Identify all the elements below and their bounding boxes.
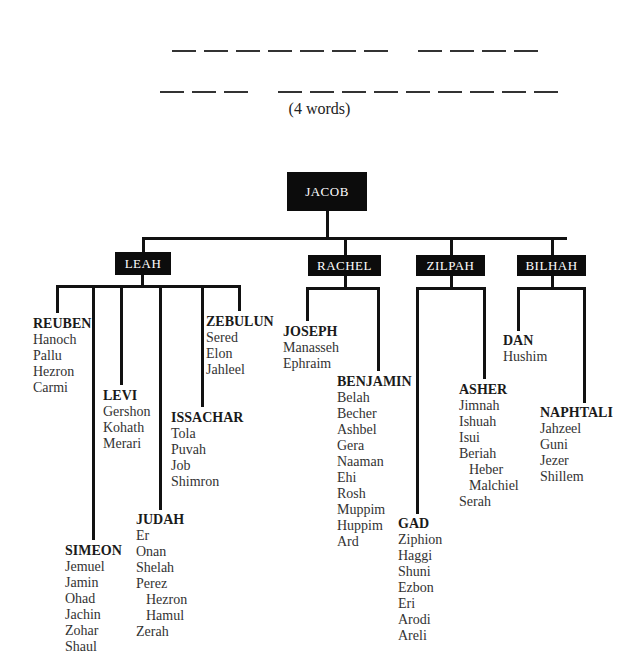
grandson: Job: [171, 458, 243, 474]
connector: [326, 211, 329, 239]
connector: [551, 237, 554, 255]
connector: [56, 285, 241, 288]
letter-blank: [364, 50, 388, 52]
word-count-hint: (4 words): [0, 100, 639, 118]
node-zilpah: ZILPAH: [416, 255, 485, 276]
grandson: Haggi: [398, 548, 442, 564]
letter-blank: [236, 50, 260, 52]
connector: [306, 287, 309, 321]
grandson: Serah: [459, 494, 519, 510]
letter-blank: [172, 50, 196, 52]
son-name: JOSEPH: [283, 324, 339, 340]
letter-blank: [406, 91, 430, 93]
son-judah: JUDAH Er Onan Shelah Perez Hezron Hamul …: [136, 512, 187, 640]
grandson: Eri: [398, 596, 442, 612]
great-grandson: Malchiel: [459, 478, 519, 494]
grandson: Shaul: [65, 639, 122, 655]
grandson: Ishuah: [459, 414, 519, 430]
connector: [344, 237, 347, 255]
connector: [159, 285, 162, 510]
node-leah: LEAH: [115, 252, 171, 275]
node-bilhah: BILHAH: [517, 255, 586, 276]
son-name: ISSACHAR: [171, 410, 243, 426]
grandson: Kohath: [103, 420, 150, 436]
son-name: DAN: [503, 333, 547, 349]
grandson: Perez: [136, 576, 187, 592]
grandson: Shuni: [398, 564, 442, 580]
letter-blank: [278, 91, 302, 93]
grandson: Arodi: [398, 612, 442, 628]
node-rachel: RACHEL: [308, 255, 381, 276]
letter-blank: [502, 91, 526, 93]
letter-blank: [482, 50, 506, 52]
grandson: Shillem: [540, 469, 613, 485]
connector: [306, 287, 380, 290]
grandson: Ashbel: [337, 422, 412, 438]
son-levi: LEVI Gershon Kohath Merari: [103, 388, 150, 452]
letter-blank: [204, 50, 228, 52]
grandson: Er: [136, 528, 187, 544]
grandson: Hanoch: [33, 332, 91, 348]
son-joseph: JOSEPH Manasseh Ephraim: [283, 324, 339, 372]
letter-blank: [310, 91, 334, 93]
son-issachar: ISSACHAR Tola Puvah Job Shimron: [171, 410, 243, 490]
grandson: Shelah: [136, 560, 187, 576]
grandson: Merari: [103, 436, 150, 452]
puzzle-line-2: [160, 91, 580, 93]
grandson: Beriah: [459, 446, 519, 462]
grandson: Carmi: [33, 380, 91, 396]
grandson: Hushim: [503, 349, 547, 365]
grandson: Ehi: [337, 470, 412, 486]
son-name: ZEBULUN: [206, 314, 274, 330]
letter-blank: [332, 50, 356, 52]
letter-blank: [192, 91, 216, 93]
son-gad: GAD Ziphion Haggi Shuni Ezbon Eri Arodi …: [398, 516, 442, 644]
grandson: Jezer: [540, 453, 613, 469]
son-dan: DAN Hushim: [503, 333, 547, 365]
son-name: ASHER: [459, 382, 519, 398]
connector: [92, 285, 95, 540]
grandson: Jamin: [65, 575, 122, 591]
grandson: Sered: [206, 330, 274, 346]
great-grandson: Hezron: [136, 592, 187, 608]
connector: [483, 287, 486, 379]
grandson: Jahzeel: [540, 421, 613, 437]
grandson: Jachin: [65, 607, 122, 623]
grandson: Rosh: [337, 486, 412, 502]
grandson: Jemuel: [65, 559, 122, 575]
connector: [120, 285, 123, 385]
grandson: Isui: [459, 430, 519, 446]
letter-blank: [438, 91, 462, 93]
grandson: Ezbon: [398, 580, 442, 596]
grandson: Manasseh: [283, 340, 339, 356]
grandson: Elon: [206, 346, 274, 362]
son-simeon: SIMEON Jemuel Jamin Ohad Jachin Zohar Sh…: [65, 543, 122, 655]
connector: [517, 287, 520, 331]
son-name: SIMEON: [65, 543, 122, 559]
letter-blank: [514, 50, 538, 52]
letter-blank: [300, 50, 324, 52]
connector: [142, 237, 145, 253]
grandson: Belah: [337, 390, 412, 406]
letter-blank: [342, 91, 366, 93]
son-name: GAD: [398, 516, 442, 532]
connector: [583, 287, 586, 403]
connector: [201, 285, 204, 407]
connector: [416, 287, 486, 290]
son-name: LEVI: [103, 388, 150, 404]
son-name: JUDAH: [136, 512, 187, 528]
letter-blank: [374, 91, 398, 93]
son-name: NAPHTALI: [540, 405, 613, 421]
grandson: Puvah: [171, 442, 243, 458]
blank-word: [418, 50, 538, 52]
grandson: Guni: [540, 437, 613, 453]
connector: [377, 287, 380, 371]
son-naphtali: NAPHTALI Jahzeel Guni Jezer Shillem: [540, 405, 613, 485]
connector: [517, 287, 586, 290]
letter-blank: [450, 50, 474, 52]
connector: [416, 287, 419, 514]
grandson: Tola: [171, 426, 243, 442]
grandson: Onan: [136, 544, 187, 560]
grandson: Zerah: [136, 624, 187, 640]
grandson: Hezron: [33, 364, 91, 380]
